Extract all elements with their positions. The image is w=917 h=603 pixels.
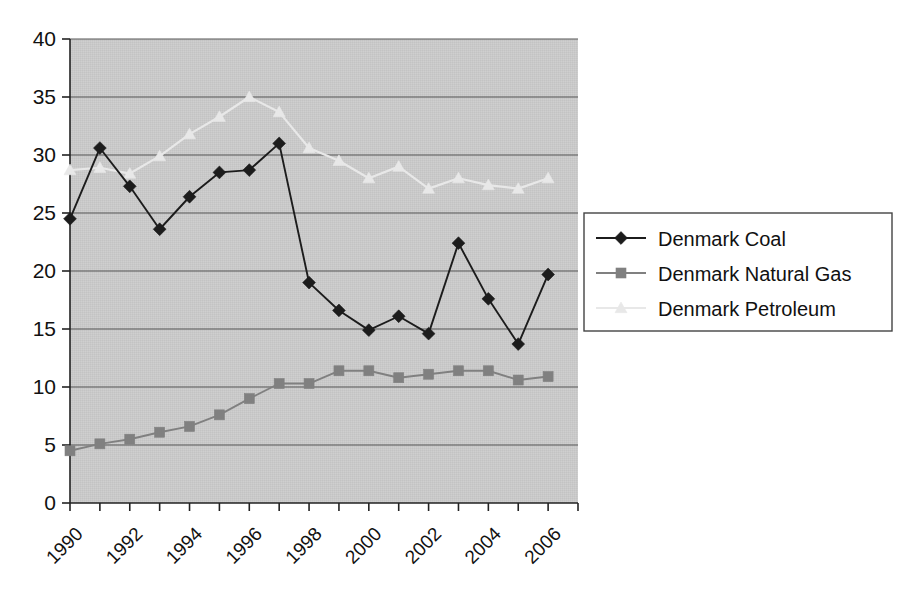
series-1-point-marker-square — [334, 366, 344, 376]
series-1-point-marker-square — [483, 366, 493, 376]
y-tick-label: 35 — [33, 85, 56, 108]
line-chart: 0510152025303540 19901992199419961998200… — [0, 0, 917, 603]
series-1-point-marker-square — [453, 366, 463, 376]
series-1-point-marker-square — [185, 421, 195, 431]
series-1-point-marker-square — [274, 379, 284, 389]
series-1-point-marker-square — [244, 394, 254, 404]
y-tick-label: 0 — [44, 491, 56, 514]
legend-entry-label: Denmark Natural Gas — [658, 263, 851, 285]
series-1-point-marker-square — [214, 410, 224, 420]
legend-1-marker-square — [616, 268, 626, 278]
series-1-point-marker-square — [364, 366, 374, 376]
y-tick-label: 40 — [33, 27, 56, 50]
series-1-point-marker-square — [65, 446, 75, 456]
series-1-point-marker-square — [424, 369, 434, 379]
series-1-point-marker-square — [95, 439, 105, 449]
y-tick-label: 15 — [33, 317, 56, 340]
series-1-point-marker-square — [125, 434, 135, 444]
legend: Denmark CoalDenmark Natural GasDenmark P… — [584, 213, 892, 331]
series-1-point-marker-square — [394, 373, 404, 383]
series-1-point-marker-square — [304, 379, 314, 389]
y-tick-label: 20 — [33, 259, 56, 282]
legend-entry-label: Denmark Coal — [658, 228, 786, 250]
y-tick-label: 25 — [33, 201, 56, 224]
y-tick-label: 10 — [33, 375, 56, 398]
y-tick-label: 5 — [44, 433, 56, 456]
series-1-point-marker-square — [513, 375, 523, 385]
y-tick-label: 30 — [33, 143, 56, 166]
chart-container: 0510152025303540 19901992199419961998200… — [0, 0, 917, 603]
series-1-point-marker-square — [543, 372, 553, 382]
series-1-point-marker-square — [155, 427, 165, 437]
legend-entry-label: Denmark Petroleum — [658, 298, 836, 320]
